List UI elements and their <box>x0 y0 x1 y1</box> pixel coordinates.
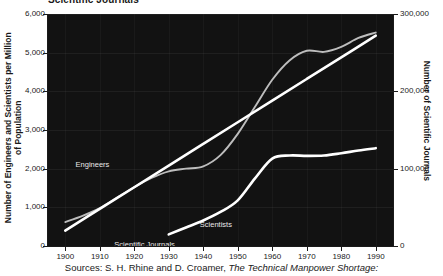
series-label-name: Engineers <box>76 160 110 169</box>
chart-title: Scientific Journals <box>48 0 139 5</box>
x-tick <box>100 247 101 251</box>
y-tick-label-left: 3,000 <box>25 126 45 134</box>
x-tick <box>238 247 239 251</box>
x-tick <box>341 247 342 251</box>
y-axis-title-left: Number of Engineers and Scientists per M… <box>4 28 24 228</box>
series-line-engineers <box>65 33 376 222</box>
x-tick <box>169 247 170 251</box>
x-tick <box>134 247 135 251</box>
y-tick-label-right: 0 <box>400 242 404 250</box>
x-tick-label: 1970 <box>298 253 316 261</box>
y-tick-label-right: 300,000 <box>400 10 429 18</box>
y-tick-label-left: 2,000 <box>25 165 45 173</box>
x-tick-label: 1920 <box>125 253 143 261</box>
x-tick <box>272 247 273 251</box>
series-label-name: Scientists <box>200 220 232 229</box>
y-tick-label-left: 6,000 <box>25 10 45 18</box>
x-tick-label: 1960 <box>263 253 281 261</box>
x-tick-label: 1990 <box>367 253 385 261</box>
y-tick-label-left: 5,000 <box>25 49 45 57</box>
y-axis-left-line <box>47 14 48 247</box>
source-prefix: Sources: S. H. Rhine and D. Croamer, <box>65 262 229 273</box>
x-tick <box>65 247 66 251</box>
y-tick-label-left: 1,000 <box>25 203 45 211</box>
y-tick-right <box>394 169 398 170</box>
source-caption: Sources: S. H. Rhine and D. Croamer, The… <box>0 262 443 273</box>
y-tick-label-right: 100,000 <box>400 165 429 173</box>
y-tick-label-left: 4,000 <box>25 87 45 95</box>
y-tick-label-right: 200,000 <box>400 87 429 95</box>
x-tick-label: 1950 <box>229 253 247 261</box>
y-axis-right-line <box>393 14 394 247</box>
x-tick-label: 1910 <box>91 253 109 261</box>
y-tick-label-left: 0 <box>41 242 45 250</box>
series-label-scientists: Scientists <box>200 220 232 229</box>
chart-figure: Scientific Journals Number of Engineers … <box>0 0 443 276</box>
x-tick-label: 1980 <box>332 253 350 261</box>
series-line-scientific-journals <box>65 36 376 231</box>
y-tick-right <box>394 14 398 15</box>
x-tick-label: 1940 <box>194 253 212 261</box>
x-tick <box>376 247 377 251</box>
y-axis-title-right: Number of Scientific Journals <box>421 31 431 211</box>
x-tick <box>203 247 204 251</box>
series-label-engineers: Engineers <box>76 160 110 169</box>
x-tick <box>307 247 308 251</box>
plot-area: EngineersScientific Journals(right axis)… <box>48 14 393 246</box>
source-title: The Technical Manpower Shortage: <box>229 262 379 273</box>
y-tick-right <box>394 91 398 92</box>
x-tick-label: 1900 <box>56 253 74 261</box>
y-tick-right <box>394 246 398 247</box>
series-lines <box>48 14 393 246</box>
x-tick-label: 1930 <box>160 253 178 261</box>
